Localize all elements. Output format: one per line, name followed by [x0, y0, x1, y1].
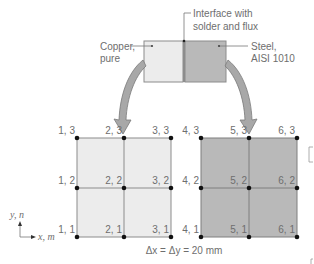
label-6-2: 6, 2 — [278, 175, 295, 186]
node-1-2 — [75, 186, 80, 191]
axes-lines — [20, 225, 32, 237]
grid-spacing-caption: Δx = Δy = 20 mm — [146, 245, 223, 256]
edge-bracket — [309, 147, 313, 264]
label-2-1: 2, 1 — [105, 224, 122, 235]
label-4-3: 4, 3 — [182, 125, 199, 136]
label-3-3: 3, 3 — [152, 125, 169, 136]
interface-leader-dot — [183, 40, 186, 43]
node-2-3 — [122, 136, 127, 141]
steel-mapping-arrow — [225, 60, 257, 134]
copper-block — [144, 41, 183, 82]
node-6-2 — [295, 186, 300, 191]
label-2-2: 2, 2 — [105, 175, 122, 186]
y-arrow-icon — [18, 221, 22, 226]
label-3-1: 3, 1 — [152, 224, 169, 235]
composite-bar — [144, 41, 226, 82]
copper-label-line1: Copper, — [100, 41, 135, 52]
label-1-2: 1, 2 — [58, 175, 75, 186]
node-1-3 — [75, 136, 80, 141]
node-3-2 — [169, 186, 174, 191]
coordinate-axes: y, n x, m — [9, 209, 55, 242]
node-3-1 — [169, 235, 174, 240]
steel-label-line1: Steel, — [251, 41, 277, 52]
node-4-1 — [199, 235, 204, 240]
interface-label-line2: solder and flux — [193, 21, 258, 32]
node-2-2 — [122, 186, 127, 191]
node-6-1 — [295, 235, 300, 240]
steel-label-line2: AISI 1010 — [251, 53, 295, 64]
copper-mapping-arrow — [114, 60, 146, 134]
label-3-2: 3, 2 — [152, 175, 169, 186]
node-5-3 — [247, 136, 252, 141]
node-1-1 — [75, 235, 80, 240]
label-5-1: 5, 1 — [230, 224, 247, 235]
nodal-network-diagram: Interface with solder and flux Copper, p… — [0, 0, 314, 264]
node-5-1 — [247, 235, 252, 240]
interface-label-line1: Interface with — [193, 8, 252, 19]
label-6-1: 6, 1 — [278, 224, 295, 235]
steel-leader-dot — [218, 45, 220, 47]
label-1-3: 1, 3 — [58, 125, 75, 136]
x-arrow-icon — [31, 235, 36, 239]
label-4-1: 4, 1 — [182, 224, 199, 235]
label-4-2: 4, 2 — [182, 175, 199, 186]
label-6-3: 6, 3 — [278, 125, 295, 136]
y-axis-label: y, n — [9, 209, 24, 220]
x-axis-label: x, m — [37, 231, 55, 242]
copper-label-line2: pure — [100, 53, 120, 64]
label-1-1: 1, 1 — [58, 224, 75, 235]
steel-block — [185, 41, 226, 82]
label-5-2: 5, 2 — [230, 175, 247, 186]
label-2-3: 2, 3 — [105, 125, 122, 136]
interface-leader — [184, 13, 191, 41]
node-3-3 — [169, 136, 174, 141]
node-5-2 — [247, 186, 252, 191]
label-5-3: 5, 3 — [230, 125, 247, 136]
node-2-1 — [122, 235, 127, 240]
node-4-3 — [199, 136, 204, 141]
node-6-3 — [295, 136, 300, 141]
node-4-2 — [199, 186, 204, 191]
copper-leader-dot — [151, 45, 153, 47]
